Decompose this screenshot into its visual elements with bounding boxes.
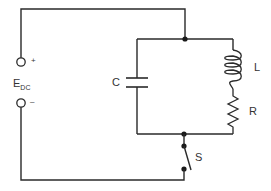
top-wire [21, 9, 185, 58]
capacitor-label: C [112, 76, 120, 88]
inductor-symbol [225, 50, 242, 89]
circuit-diagram: + – EDC C L R S [0, 0, 271, 191]
positive-terminal [17, 58, 25, 66]
source-label: EDC [13, 77, 30, 91]
resistor-label: R [249, 105, 257, 117]
switch-lever[interactable] [184, 146, 191, 170]
bottom-wire [21, 107, 184, 180]
capacitor-symbol [126, 78, 148, 87]
minus-label: – [30, 97, 35, 106]
inductor-label: L [254, 61, 260, 73]
switch-label: S [195, 151, 202, 163]
plus-label: + [31, 56, 36, 65]
top-junction-dot [182, 36, 187, 41]
resistor-symbol [228, 89, 238, 134]
negative-terminal [17, 99, 25, 107]
